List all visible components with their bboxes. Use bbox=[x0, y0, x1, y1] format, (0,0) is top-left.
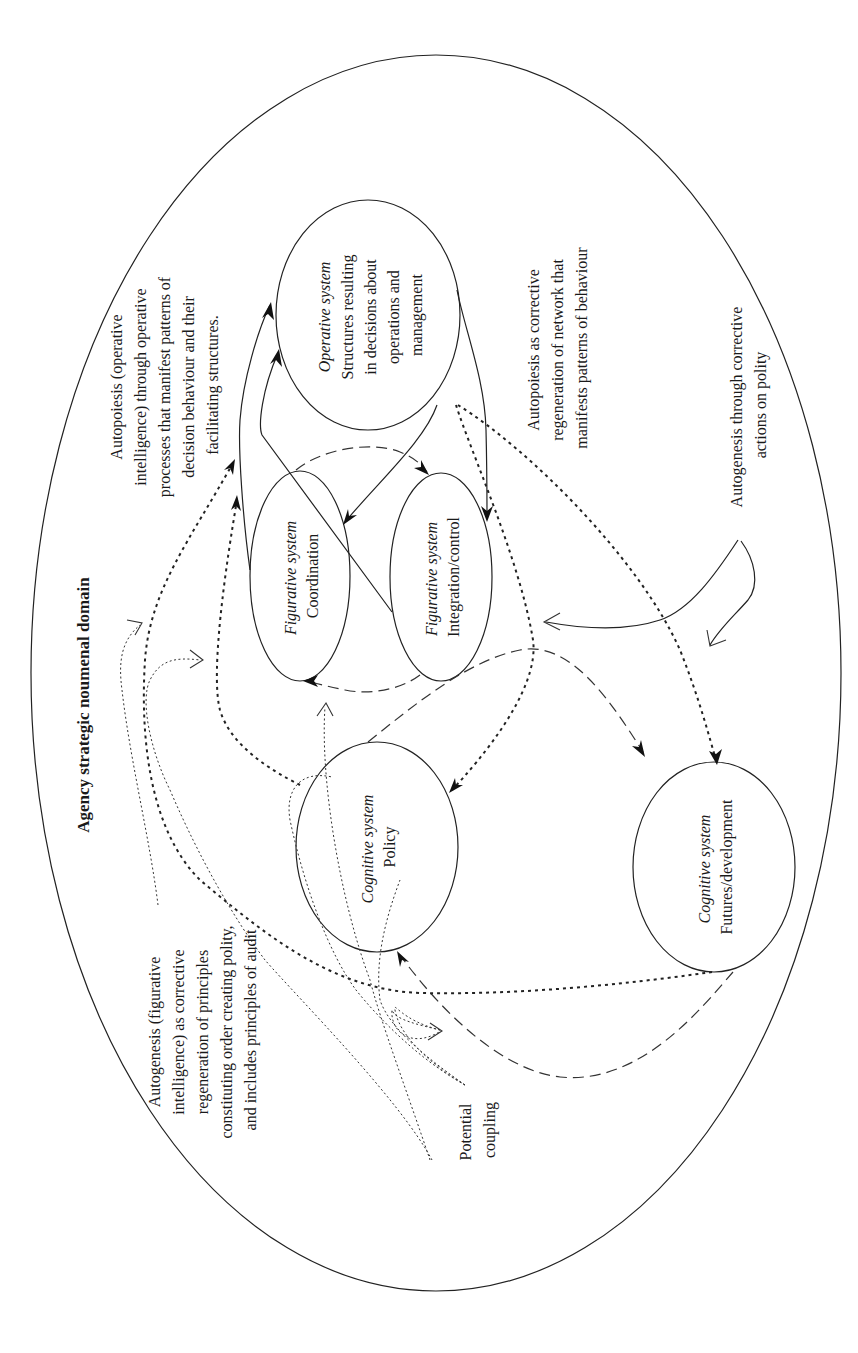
annotation-autogenesis-figurative: Autogenesis (figurative intelligence) as… bbox=[146, 921, 260, 1138]
node-coordination: Figurative system Coordination bbox=[250, 471, 350, 681]
agency-diagram: Agency strategic noumenal domain Operati… bbox=[0, 0, 858, 1353]
annotation-autopoiesis-corrective: Autopoiesis as corrective regeneration o… bbox=[525, 247, 591, 449]
svg-text:Figurative system Coordi: Figurative system Coordination bbox=[282, 517, 321, 636]
arrowhead-icon bbox=[397, 951, 409, 967]
futures-type-label: Cognitive system bbox=[696, 815, 714, 924]
arrowhead-icon bbox=[343, 509, 357, 525]
operative-type-label: Operative system bbox=[316, 262, 334, 373]
coordination-name: Coordination bbox=[304, 534, 321, 618]
integration-type-label: Figurative system bbox=[423, 522, 441, 637]
operative-line-1: Structures resulting bbox=[339, 255, 357, 380]
dotted-flows bbox=[144, 405, 722, 993]
svg-text:Cognitive system Futures: Cognitive system Futures/development bbox=[696, 799, 736, 935]
coordination-type-label: Figurative system bbox=[282, 521, 300, 636]
svg-text:Cognitive system Policy: Cognitive system Policy bbox=[359, 791, 399, 904]
policy-type-label: Cognitive system bbox=[359, 795, 377, 904]
arrowhead-icon bbox=[414, 460, 429, 475]
svg-text:Autopoiesis as corrective: Autopoiesis as corrective regeneration o… bbox=[525, 247, 591, 449]
annotation-autopoiesis-operative: Autopoiesis (operative intelligence) thr… bbox=[108, 273, 222, 497]
svg-text:Figurative system Integr: Figurative system Integration/control bbox=[423, 516, 463, 637]
arrowhead-icon bbox=[262, 302, 274, 320]
node-integration: Figurative system Integration/control bbox=[390, 473, 492, 681]
svg-text:Autogenesis through corrective: Autogenesis through corrective actions o… bbox=[728, 303, 770, 508]
arrowhead-icon bbox=[449, 778, 463, 793]
integration-name: Integration/control bbox=[445, 516, 463, 637]
operative-line-2: in decisions about bbox=[362, 259, 379, 375]
arrowhead-icon bbox=[303, 675, 318, 687]
annotation-potential-coupling: Potential coupling bbox=[457, 1100, 499, 1161]
operative-line-4: management bbox=[408, 274, 426, 356]
futures-name: Futures/development bbox=[718, 799, 736, 935]
diagram-title: Agency strategic noumenal domain bbox=[74, 577, 93, 833]
svg-text:Potential coupling: Potential coupling bbox=[457, 1100, 499, 1161]
policy-name: Policy bbox=[381, 827, 399, 868]
svg-text:Autopoiesis (operative i: Autopoiesis (operative intelligence) thr… bbox=[108, 273, 222, 497]
arrowhead-icon bbox=[632, 740, 645, 757]
svg-text:Autogenesis (figurative: Autogenesis (figurative intelligence) as… bbox=[146, 921, 260, 1138]
node-futures: Cognitive system Futures/development bbox=[633, 762, 795, 972]
svg-text:Operative system Structu: Operative system Structures resulting in… bbox=[316, 251, 426, 380]
operative-line-3: operations and bbox=[385, 270, 403, 364]
annotation-autogenesis-polity: Autogenesis through corrective actions o… bbox=[728, 303, 770, 508]
node-operative: Operative system Structures resulting in… bbox=[276, 200, 460, 430]
node-policy: Cognitive system Policy bbox=[296, 742, 458, 952]
arrowhead-icon bbox=[224, 459, 235, 475]
